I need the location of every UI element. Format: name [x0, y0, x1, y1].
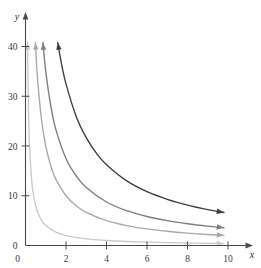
x-tick-label-4: 4: [104, 254, 109, 264]
x-tick-label-6: 6: [145, 254, 150, 264]
curve-1: [27, 43, 223, 244]
x-tick-label-2: 2: [64, 254, 69, 264]
chart-figure: 010203040 0246810 y x: [0, 0, 261, 268]
y-tick-label-20: 20: [8, 142, 18, 152]
curve-3-right-arrowhead: [217, 224, 225, 230]
y-axis-arrowhead: [23, 12, 29, 20]
curve-2-top-arrowhead: [33, 42, 39, 50]
y-tick-label-0: 0: [13, 241, 18, 251]
x-tick-label-10: 10: [223, 254, 233, 264]
origin-tick-label: 0: [15, 254, 20, 264]
curve-4: [58, 43, 224, 213]
y-tick-label-10: 10: [8, 191, 18, 201]
x-tick-label-8: 8: [185, 254, 190, 264]
curves-layer: [25, 42, 225, 246]
x-tick-labels-layer: 0246810: [15, 254, 233, 264]
y-axis-title: y: [14, 11, 20, 22]
y-tick-label-30: 30: [8, 92, 18, 102]
curve-2-right-arrowhead: [217, 232, 224, 238]
x-axis-title: x: [249, 249, 255, 260]
x-axis-arrowhead: [246, 243, 254, 249]
y-tick-label-40: 40: [8, 42, 18, 52]
y-tick-labels-layer: 010203040: [8, 42, 18, 251]
hyperbola-chart-svg: 010203040 0246810 y x: [0, 0, 261, 268]
curve-3-top-arrowhead: [40, 42, 46, 50]
